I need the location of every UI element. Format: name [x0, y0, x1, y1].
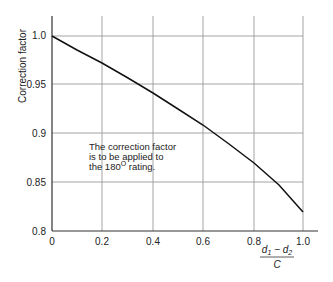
x-tick-label: 0.4: [146, 236, 160, 247]
correction-factor-curve: [52, 36, 303, 212]
correction-factor-chart: 1.0 0.95 0.9 0.85 0.8 0 0.2 0.4 0.6 0.8 …: [0, 0, 333, 282]
y-tick-label: 0.85: [27, 177, 47, 188]
y-tick-label: 0.8: [32, 226, 46, 237]
y-tick-label: 0.95: [27, 79, 47, 90]
x-tick-label: 0.8: [247, 236, 261, 247]
svg-text:C: C: [273, 259, 281, 270]
grid: [52, 16, 303, 231]
x-tick-label: 0: [49, 236, 55, 247]
y-axis-label: Correction factor: [17, 28, 28, 103]
y-tick-label: 0.9: [32, 128, 46, 139]
x-axis-label: d1 − d2 C: [260, 244, 294, 270]
x-tick-label: 1.0: [296, 236, 310, 247]
annotation-line: the 180O rating.: [89, 160, 155, 172]
x-tick-label: 0.2: [95, 236, 109, 247]
svg-text:d1 − d2: d1 − d2: [262, 244, 292, 256]
axes: [52, 16, 318, 231]
y-tick-label: 1.0: [32, 30, 46, 41]
x-tick-label: 0.6: [196, 236, 210, 247]
